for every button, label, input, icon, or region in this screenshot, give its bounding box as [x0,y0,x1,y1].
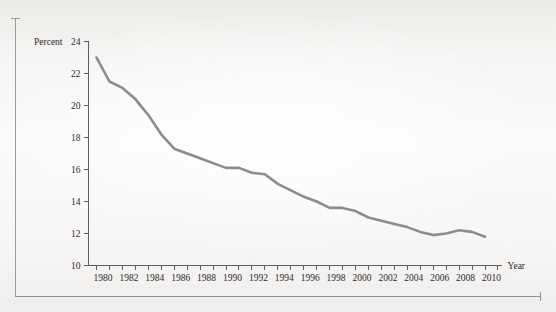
x-axis-tick-label: 2006 [430,273,449,283]
y-axis-tick-label: 18 [71,133,81,143]
x-axis-tick-label: 1994 [275,273,294,283]
x-axis: 1980198219841986198819901992199419961998… [89,266,502,283]
y-axis-tick-label: 16 [71,165,81,175]
y-axis-title: Percent [34,37,63,47]
x-axis-tick-label: 2004 [404,273,423,283]
series-line [97,58,486,237]
y-axis-tick-label: 20 [71,101,81,111]
x-axis-tick-label: 1982 [119,273,138,283]
x-axis-tick-label: 1986 [171,273,190,283]
y-axis-tick-label: 22 [71,69,81,79]
x-axis-title: Year [508,261,526,271]
x-axis-tick-label: 1992 [249,273,268,283]
x-axis-tick-label: 1990 [223,273,242,283]
x-axis-tick-label: 2010 [482,273,501,283]
y-axis-tick-label: 24 [71,37,81,47]
chart-canvas: 1012141618202224 19801982198419861988199… [0,0,556,312]
x-axis-tick-label: 2008 [456,273,475,283]
x-axis-tick-label: 2000 [352,273,371,283]
x-axis-tick-label: 1998 [327,273,346,283]
data-series [97,58,486,237]
x-axis-tick-label: 2002 [378,273,397,283]
x-axis-tick-label: 1996 [301,273,320,283]
line-chart: 1012141618202224 19801982198419861988199… [0,0,556,312]
x-axis-tick-label: 1984 [145,273,164,283]
y-axis-tick-label: 10 [71,261,81,271]
y-axis-tick-label: 12 [71,229,81,239]
x-axis-tick-label: 1980 [93,273,112,283]
axis-labels: PercentYear [34,37,526,271]
scanned-page: 1012141618202224 19801982198419861988199… [0,0,556,312]
x-axis-tick-label: 1988 [197,273,216,283]
y-axis: 1012141618202224 [71,37,89,271]
y-axis-tick-label: 14 [71,197,81,207]
